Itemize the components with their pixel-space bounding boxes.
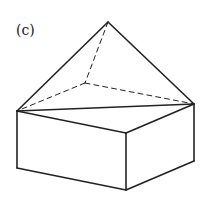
edge-front_top-right [126,104,194,133]
hidden-edge-hidden_back-left [17,83,85,111]
edge-left-front_top [17,111,126,133]
hidden-edge-hidden_back-right [85,83,194,104]
edge-apex-right [108,22,194,104]
hidden-edge-apex-hidden_back [85,22,108,83]
edge-front_bottom-right_bottom [126,161,194,190]
edge-left_bottom-front_bottom [17,168,126,190]
edge-apex-left [17,22,108,111]
edge-left-right [17,104,194,111]
pyramid-on-box-diagram [0,0,208,222]
